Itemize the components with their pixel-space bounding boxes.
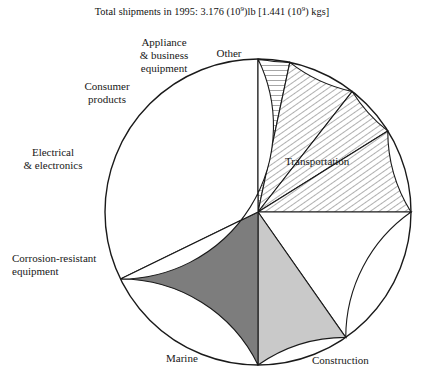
slice-label-transportation: Transportation [285,155,385,168]
pie-slice [120,212,258,365]
slice-label-consumer-products: Consumer products [62,80,152,106]
slice-label-construction: Construction [312,354,402,367]
slice-label-other: Other [200,47,258,60]
slice-label-corrosion-resistant-equipment: Corrosion-resistant equipment [12,252,132,278]
slice-label-appliance-business-equipment: Appliance & business equipment [118,36,210,76]
slice-label-electrical-electronics: Electrical & electronics [0,146,108,172]
pie-chart-figure: Total shipments in 1995: 3.176 (109)lb [… [0,0,424,384]
slice-label-marine: Marine [166,352,226,365]
